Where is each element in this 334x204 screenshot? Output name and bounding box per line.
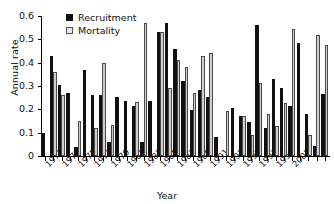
bar-mortality bbox=[61, 95, 64, 156]
y-tick-label: 0.5 bbox=[0, 33, 34, 44]
x-tick bbox=[325, 157, 326, 161]
bar-mortality bbox=[242, 116, 245, 156]
bar-recruitment bbox=[41, 133, 44, 156]
bar-mortality bbox=[185, 67, 188, 156]
bar-mortality bbox=[259, 83, 262, 156]
x-tick bbox=[308, 157, 309, 161]
bar-mortality bbox=[168, 88, 171, 156]
bar-chart: Annual rate 00.10.20.30.40.50.6 19711973… bbox=[0, 0, 334, 204]
legend-label-recruitment: Recruitment bbox=[78, 12, 136, 23]
legend-item-recruitment: Recruitment bbox=[66, 11, 136, 24]
bar-mortality bbox=[267, 114, 270, 156]
plot-area bbox=[41, 16, 329, 156]
x-tick bbox=[185, 157, 186, 161]
bar-recruitment bbox=[297, 43, 300, 156]
bar-mortality bbox=[284, 103, 287, 156]
bar-recruitment bbox=[124, 101, 127, 156]
x-tick bbox=[136, 157, 137, 161]
bar-mortality bbox=[292, 29, 295, 156]
y-tick-label: 0.6 bbox=[0, 10, 34, 21]
bar-recruitment bbox=[115, 97, 118, 156]
x-tick bbox=[201, 157, 202, 161]
x-tick bbox=[103, 157, 104, 161]
bar-mortality bbox=[209, 53, 212, 156]
x-tick bbox=[86, 157, 87, 161]
x-tick bbox=[267, 157, 268, 161]
legend-swatch-mortality-icon bbox=[66, 27, 73, 34]
bar-mortality bbox=[135, 102, 138, 156]
x-tick bbox=[317, 157, 318, 161]
y-tick-label: 0.4 bbox=[0, 57, 34, 68]
bar-mortality bbox=[160, 32, 163, 156]
y-tick-label: 0 bbox=[0, 150, 34, 161]
bar-recruitment bbox=[83, 70, 86, 156]
x-tick bbox=[251, 157, 252, 161]
x-tick bbox=[284, 157, 285, 161]
legend-swatch-recruitment-icon bbox=[66, 14, 73, 21]
bar-recruitment bbox=[66, 93, 69, 156]
y-tick-label: 0.1 bbox=[0, 127, 34, 138]
bar-recruitment bbox=[148, 101, 151, 156]
x-tick bbox=[119, 157, 120, 161]
bar-mortality bbox=[53, 72, 56, 156]
bar-mortality bbox=[144, 23, 147, 156]
bar-mortality bbox=[251, 135, 254, 156]
bar-mortality bbox=[316, 35, 319, 156]
bar-mortality bbox=[325, 45, 328, 156]
y-tick bbox=[38, 156, 42, 157]
legend-label-mortality: Mortality bbox=[78, 25, 120, 36]
x-tick bbox=[234, 157, 235, 161]
bar-recruitment bbox=[231, 108, 234, 156]
y-tick-label: 0.3 bbox=[0, 80, 34, 91]
chart-legend: Recruitment Mortality bbox=[66, 11, 136, 37]
x-tick bbox=[300, 157, 301, 161]
bar-mortality bbox=[275, 126, 278, 156]
bar-mortality bbox=[111, 125, 114, 156]
bar-mortality bbox=[102, 63, 105, 156]
bar-mortality bbox=[94, 128, 97, 156]
x-axis-title: Year bbox=[0, 190, 334, 201]
bar-recruitment bbox=[214, 137, 217, 156]
bar-mortality bbox=[78, 121, 81, 156]
legend-item-mortality: Mortality bbox=[66, 24, 136, 37]
bar-mortality bbox=[193, 93, 196, 156]
x-tick bbox=[53, 157, 54, 161]
bar-mortality bbox=[201, 56, 204, 156]
bar-mortality bbox=[177, 60, 180, 156]
x-tick bbox=[70, 157, 71, 161]
y-tick-label: 0.2 bbox=[0, 103, 34, 114]
bar-mortality bbox=[226, 111, 229, 156]
bar-mortality bbox=[308, 135, 311, 156]
x-tick bbox=[218, 157, 219, 161]
x-tick bbox=[152, 157, 153, 161]
x-tick bbox=[169, 157, 170, 161]
